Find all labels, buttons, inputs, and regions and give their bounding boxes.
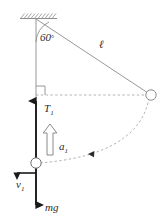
swing-direction-arrowhead bbox=[88, 151, 94, 157]
angle-label: 60° bbox=[40, 31, 54, 43]
physics-diagram-figure: 60° ℓ T1 mg a1 bbox=[0, 0, 167, 223]
hatched-ceiling-support bbox=[20, 14, 57, 19]
bob-raised bbox=[146, 90, 156, 100]
velocity-label: v1 bbox=[16, 178, 24, 193]
diagram-canvas: 60° ℓ T1 mg a1 bbox=[0, 0, 167, 223]
ceiling-hatching bbox=[21, 14, 57, 19]
bob-lowest bbox=[31, 158, 41, 168]
acceleration-label: a1 bbox=[59, 140, 68, 155]
string-line bbox=[36, 19, 151, 95]
string-length-label: ℓ bbox=[99, 38, 104, 50]
weight-label: mg bbox=[45, 201, 59, 213]
tension-label: T1 bbox=[44, 102, 54, 117]
acceleration-block-arrow bbox=[43, 124, 57, 155]
right-angle-marker bbox=[36, 86, 45, 95]
